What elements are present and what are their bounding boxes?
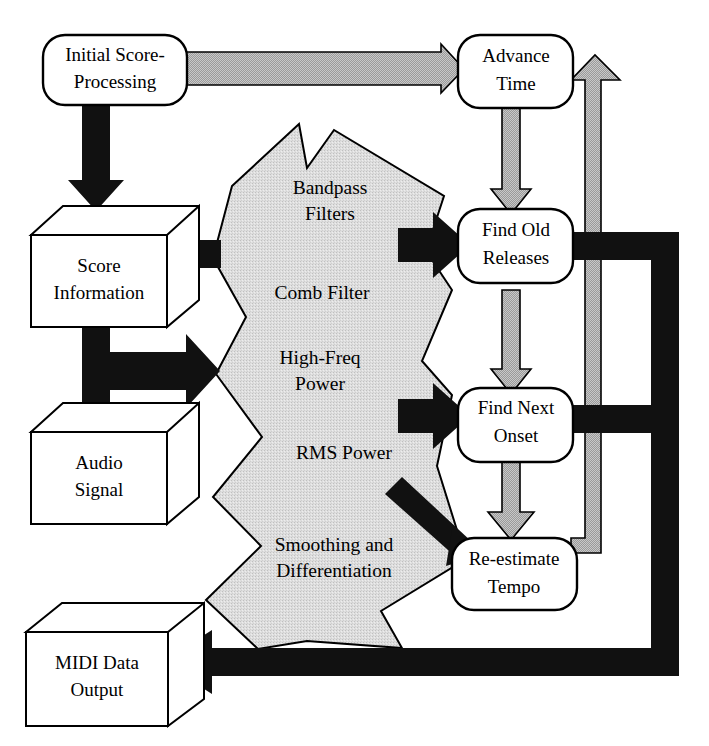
bandpass-filters-label-line2: Filters (305, 203, 355, 224)
find-old-releases-label-line2: Releases (483, 247, 549, 268)
flow-re-estimate-tempo-to-advance-time (571, 55, 620, 553)
diagram-canvas: Score Information Audio Signal MIDI Data… (0, 0, 709, 746)
flow-advance-time-to-find-old-releases (491, 107, 531, 214)
find-next-onset[interactable]: Find Next Onset (458, 388, 573, 462)
smoothing-label-line1: Smoothing and (275, 534, 394, 555)
flow-find-next-onset-to-midi-output (571, 405, 679, 433)
flow-find-old-releases-to-find-next-onset (491, 290, 531, 394)
initial-score-processing-label-line2: Processing (74, 71, 157, 92)
bandpass-filters-label-line1: Bandpass (293, 177, 368, 198)
high-freq-power-label-line1: High-Freq (279, 347, 360, 368)
find-next-onset-label-line2: Onset (494, 425, 539, 446)
smoothing-label-line2: Differentiation (276, 560, 392, 581)
flow-initial-to-score-information (68, 104, 124, 211)
flow-diagram: Score Information Audio Signal MIDI Data… (0, 0, 709, 746)
initial-score-processing-label-line1: Initial Score- (65, 44, 165, 65)
comb-filter: Comb Filter (275, 282, 370, 303)
audio-signal-label-line2: Signal (75, 479, 124, 500)
audio-signal[interactable]: Audio Signal (31, 403, 199, 524)
re-estimate-tempo[interactable]: Re-estimate Tempo (452, 538, 577, 610)
flow-find-next-onset-to-re-estimate-tempo (488, 462, 534, 540)
score-information-label-line1: Score (77, 255, 120, 276)
flow-initial-to-advance-time (186, 44, 464, 93)
find-old-releases-label-line1: Find Old (482, 219, 551, 240)
rms-power: RMS Power (296, 442, 392, 463)
score-information[interactable]: Score Information (31, 206, 199, 327)
find-next-onset-label-line1: Find Next (478, 397, 555, 418)
advance-time[interactable]: Advance Time (458, 35, 573, 108)
find-old-releases[interactable]: Find Old Releases (458, 209, 573, 283)
rms-power-label-line1: RMS Power (296, 442, 392, 463)
audio-signal-label-line1: Audio (75, 452, 123, 473)
re-estimate-tempo-label-line2: Tempo (488, 576, 541, 597)
initial-score-processing[interactable]: Initial Score- Processing (43, 35, 187, 105)
midi-data-output-label-line2: Output (71, 679, 125, 700)
re-estimate-tempo-label-line1: Re-estimate (469, 548, 560, 569)
comb-filter-label-line1: Comb Filter (275, 282, 370, 303)
score-information-label-line2: Information (54, 282, 145, 303)
high-freq-power-label-line2: Power (295, 373, 345, 394)
advance-time-label-line2: Time (496, 73, 535, 94)
midi-data-output-label-line1: MIDI Data (55, 652, 139, 673)
advance-time-label-line1: Advance (482, 45, 550, 66)
midi-data-output[interactable]: MIDI Data Output (26, 603, 204, 726)
